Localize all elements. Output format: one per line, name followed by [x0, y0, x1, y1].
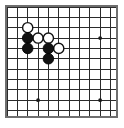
go-board-canvas[interactable]: [0, 0, 124, 128]
star-point-bottom-left: [36, 98, 40, 102]
star-point-bottom-right: [98, 98, 102, 102]
white-stone-c3-r3[interactable]: [23, 23, 33, 33]
black-stone-c5-r6[interactable]: [43, 53, 54, 64]
star-point-top-right: [98, 36, 102, 40]
white-stone-c4-r4[interactable]: [33, 33, 43, 43]
go-board-figure: Go board diagram: [0, 0, 124, 128]
black-stone-c3-r4[interactable]: [22, 33, 33, 44]
white-stone-c5-r4[interactable]: [43, 33, 53, 43]
black-stone-c5-r5[interactable]: [43, 43, 54, 54]
board-background: [0, 0, 124, 128]
black-stone-c3-r5[interactable]: [22, 43, 33, 54]
white-stone-c6-r5[interactable]: [54, 43, 64, 53]
